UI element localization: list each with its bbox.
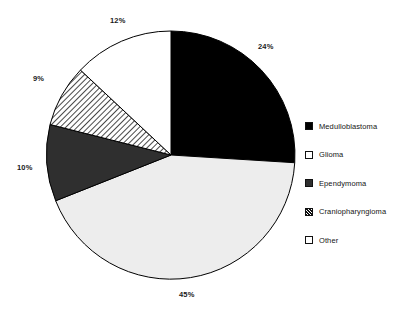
slice-label-craniopharyngioma: 9% bbox=[33, 74, 44, 83]
legend-swatch-icon bbox=[305, 179, 313, 187]
chart-legend: Medulloblastoma Glioma Ependymoma Cranio… bbox=[305, 112, 402, 255]
slice-label-ependymoma: 10% bbox=[17, 163, 33, 172]
legend-swatch-icon bbox=[305, 151, 313, 159]
legend-item-label: Other bbox=[319, 236, 338, 245]
legend-item-label: Medulloblastoma bbox=[319, 122, 377, 131]
legend-item-glioma[interactable]: Glioma bbox=[305, 141, 402, 170]
legend-swatch-icon bbox=[305, 208, 313, 216]
legend-item-label: Ependymoma bbox=[319, 179, 366, 188]
slice-label-other: 12% bbox=[110, 16, 126, 25]
legend-item-medulloblastoma[interactable]: Medulloblastoma bbox=[305, 112, 402, 141]
slice-label-medulloblastoma: 24% bbox=[258, 42, 274, 51]
legend-item-ependymoma[interactable]: Ependymoma bbox=[305, 169, 402, 198]
legend-swatch-icon bbox=[305, 236, 313, 244]
legend-swatch-icon bbox=[305, 122, 313, 130]
legend-item-other[interactable]: Other bbox=[305, 226, 402, 255]
legend-item-label: Glioma bbox=[319, 150, 343, 159]
pie-chart-figure: 12% 24% 45% 10% 9% Medulloblastoma Gliom… bbox=[0, 0, 402, 321]
pie-slice-medulloblastoma[interactable] bbox=[171, 31, 295, 163]
legend-item-label: Craniopharyngioma bbox=[319, 207, 386, 216]
legend-item-craniopharyngioma[interactable]: Craniopharyngioma bbox=[305, 198, 402, 227]
pie-plot-area: 12% 24% 45% 10% 9% bbox=[0, 0, 310, 321]
slice-label-glioma: 45% bbox=[179, 290, 195, 299]
